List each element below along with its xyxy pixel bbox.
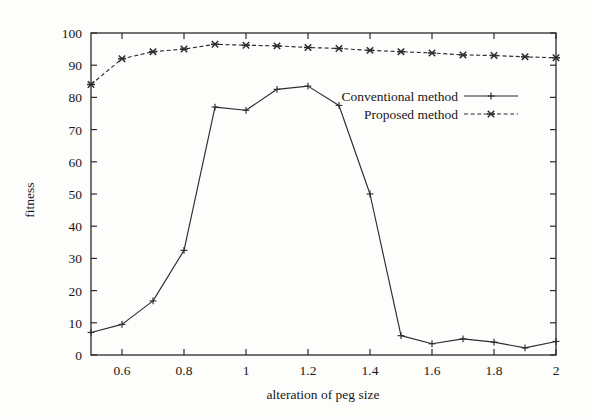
- x-tick-label: 1.8: [486, 363, 503, 378]
- y-tick-label: 30: [69, 251, 83, 266]
- y-tick-label: 80: [69, 90, 83, 105]
- legend-label: Conventional method: [341, 89, 458, 104]
- data-series-layer: [87, 41, 560, 351]
- chart-figure: 0.60.811.21.41.61.82 0102030405060708090…: [0, 0, 591, 418]
- legend-label: Proposed method: [364, 107, 458, 122]
- y-tick-label: 20: [69, 284, 83, 299]
- y-tick-label: 40: [69, 219, 83, 234]
- y-axis-ticks: [91, 33, 556, 355]
- x-tick-label: 1.6: [424, 363, 441, 378]
- y-tick-label: 0: [75, 348, 82, 363]
- y-tick-label: 10: [69, 316, 83, 331]
- series-1: [88, 83, 560, 352]
- series-2: [87, 41, 560, 88]
- x-axis-tick-labels: 0.60.811.21.41.61.82: [114, 363, 560, 378]
- x-tick-label: 1.4: [362, 363, 379, 378]
- y-tick-label: 90: [69, 58, 83, 73]
- x-tick-label: 0.8: [176, 363, 193, 378]
- x-axis-title: alteration of peg size: [267, 387, 380, 402]
- x-axis-ticks: [122, 33, 556, 355]
- y-tick-label: 50: [69, 187, 83, 202]
- x-tick-label: 1: [243, 363, 250, 378]
- line-chart: 0.60.811.21.41.61.82 0102030405060708090…: [0, 0, 591, 418]
- y-axis-tick-labels: 0102030405060708090100: [62, 26, 83, 363]
- y-tick-label: 60: [69, 155, 83, 170]
- chart-legend: Conventional methodProposed method: [341, 89, 518, 122]
- x-tick-label: 2: [553, 363, 560, 378]
- y-axis-title: fitness: [22, 182, 37, 217]
- y-tick-label: 100: [62, 26, 83, 41]
- legend-entry-1: Conventional method: [341, 89, 518, 104]
- x-tick-label: 0.6: [114, 363, 131, 378]
- x-tick-label: 1.2: [300, 363, 317, 378]
- plot-frame: [91, 33, 556, 355]
- y-tick-label: 70: [69, 123, 83, 138]
- legend-entry-2: Proposed method: [364, 107, 518, 122]
